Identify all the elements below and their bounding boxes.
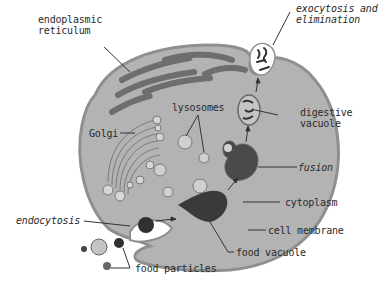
label-exocytosis-line1: exocytosis and <box>296 3 378 14</box>
label-food-vacuole: food vacuole <box>236 247 306 258</box>
label-digestive-vacuole: digestive vacuole <box>300 107 352 129</box>
label-golgi: Golgi <box>89 128 118 139</box>
food-particles <box>81 238 124 270</box>
label-er-line2: reticulum <box>38 25 102 36</box>
label-digestive-line1: digestive <box>300 107 352 118</box>
label-endocytosis: endocytosis <box>16 215 80 226</box>
label-cytoplasm: cytoplasm <box>285 197 337 208</box>
label-food-particles: food particles <box>135 263 217 274</box>
engulfed-particle <box>138 217 154 233</box>
label-exocytosis: exocytosis and elimination <box>296 3 378 25</box>
cell-diagram: endoplasmic reticulum Golgi lysosomes ex… <box>0 0 390 289</box>
label-endoplasmic-reticulum: endoplasmic reticulum <box>38 14 102 36</box>
label-er-line1: endoplasmic <box>38 14 102 25</box>
label-fusion: fusion <box>298 162 333 173</box>
cell-illustration <box>0 0 390 289</box>
label-digestive-line2: vacuole <box>300 118 352 129</box>
fused-lysosome <box>224 144 232 152</box>
label-cell-membrane: cell membrane <box>268 225 344 236</box>
label-lysosomes: lysosomes <box>172 102 224 113</box>
label-exocytosis-line2: elimination <box>296 14 378 25</box>
